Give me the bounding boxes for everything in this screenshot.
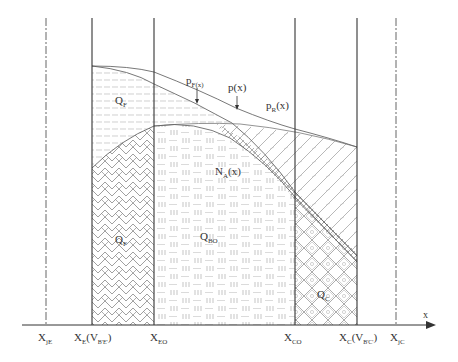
diagram-canvas: x QF QF QBO QC pF(x) p(x) pR(x) NA(x) Xj…	[0, 0, 458, 362]
x-axis-arrow-icon	[426, 321, 436, 329]
label-pf: pF(x)	[186, 74, 204, 89]
tick-xjc: XjC	[390, 331, 405, 346]
x-axis-label: x	[423, 309, 428, 320]
label-p: p(x)	[228, 81, 247, 94]
tick-xco: XCO	[284, 331, 302, 346]
tick-xeo: XEO	[150, 331, 167, 346]
tick-xc: XC(VB'C')	[339, 331, 377, 346]
label-pr: pR(x)	[266, 99, 289, 114]
tick-xe: XE(VB'E')	[74, 331, 112, 346]
tick-xje: XjE	[38, 331, 52, 346]
